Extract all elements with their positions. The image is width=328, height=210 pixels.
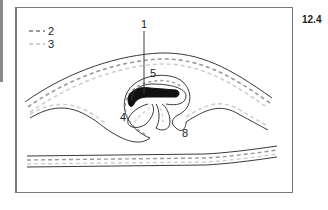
central-structure xyxy=(124,75,190,138)
label-4: 4 xyxy=(120,111,126,123)
legend-label-3: 3 xyxy=(48,38,54,50)
label-8: 8 xyxy=(182,127,188,139)
label-5: 5 xyxy=(150,67,156,79)
legend: 2 3 xyxy=(29,25,54,50)
label-1: 1 xyxy=(141,18,147,30)
bottom-band xyxy=(27,146,277,167)
diagram-canvas: 2 3 1 5 4 8 xyxy=(0,0,328,210)
stalk xyxy=(156,104,170,130)
legend-label-2: 2 xyxy=(48,25,54,37)
